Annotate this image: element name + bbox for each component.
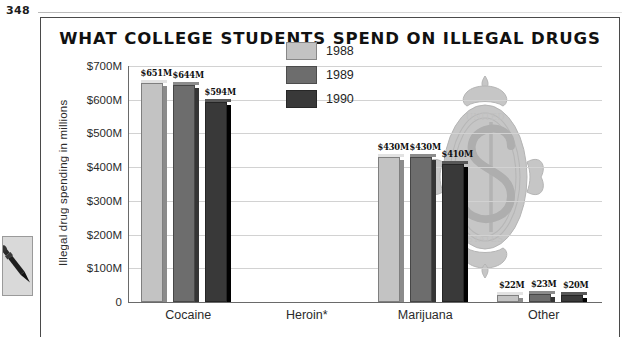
bar-top-shade	[378, 154, 404, 157]
bar-top-shade	[442, 161, 468, 164]
bar-group-other: $22M$23M$20M	[485, 66, 604, 302]
bar-top-shade	[410, 154, 436, 157]
legend-item-1988[interactable]: 1988	[286, 41, 354, 61]
bar-side-shade	[464, 167, 468, 302]
bar-value-label: $410M	[442, 149, 473, 159]
bar-top-shade	[141, 80, 167, 83]
legend-label: 1988	[326, 44, 354, 58]
bar-face	[173, 85, 195, 302]
bar-face	[497, 295, 519, 302]
bar-group-marijuana: $430M$430M$410M	[366, 66, 485, 302]
bar-side-shade	[432, 160, 436, 302]
x-axis-category-labels: CocaineHeroin*MarijuanaOther	[129, 308, 603, 328]
bar-side-shade	[400, 160, 404, 302]
y-axis-tick: $200M	[87, 229, 122, 241]
bar-face	[561, 295, 583, 302]
x-axis-label-other: Other	[528, 308, 559, 322]
bar-side-shade	[195, 88, 199, 302]
y-axis-tick: $100M	[87, 262, 122, 274]
bar-face	[529, 294, 551, 302]
chart-container: WHAT COLLEGE STUDENTS SPEND ON ILLEGAL D…	[40, 17, 620, 337]
bar-top-shade	[205, 99, 231, 102]
y-axis-tick: $500M	[87, 127, 122, 139]
x-axis-label-cocaine: Cocaine	[165, 308, 211, 322]
plot-area: UNITED STATES $651M$644M$594M$430M$430M$…	[129, 66, 602, 302]
bar-top-shade	[497, 292, 523, 295]
x-axis-label-marijuana: Marijuana	[398, 308, 453, 322]
bar-value-label: $644M	[173, 70, 204, 80]
pen-nib-icon	[2, 236, 33, 296]
bar-top-shade	[173, 82, 199, 85]
legend-label: 1989	[326, 68, 354, 82]
bar-face	[410, 157, 432, 302]
y-axis-tick: 0	[116, 296, 122, 308]
bar-group-cocaine: $651M$644M$594M	[129, 66, 248, 302]
bar-face	[442, 164, 464, 302]
y-axis-tick-labels: 0$100M$200M$300M$400M$500M$600M$700M	[74, 66, 126, 302]
bar-side-shade	[227, 105, 231, 302]
legend-item-1989[interactable]: 1989	[286, 65, 354, 85]
y-axis-tick: $700M	[87, 60, 122, 72]
bar-top-shade	[529, 291, 555, 294]
legend-item-1990[interactable]: 1990	[286, 89, 354, 109]
x-axis-label-heroin: Heroin*	[286, 308, 328, 322]
x-axis-line	[128, 302, 602, 303]
bar-value-label: $20M	[563, 280, 589, 290]
legend-swatch-1990	[286, 90, 317, 108]
bar-value-label: $23M	[531, 279, 557, 289]
bar-value-label: $430M	[410, 142, 441, 152]
bar-side-shade	[163, 86, 167, 302]
chart-legend: 198819891990	[286, 41, 354, 113]
page-number: 348	[6, 4, 30, 17]
bar-face	[205, 102, 227, 302]
y-axis-tick: $600M	[87, 94, 122, 106]
bar-value-label: $430M	[378, 142, 409, 152]
y-axis-title: Illegal drug spending in millions	[55, 70, 71, 295]
bar-face	[378, 157, 400, 302]
bar-value-label: $651M	[141, 68, 172, 78]
legend-label: 1990	[326, 92, 354, 106]
bar-top-shade	[561, 292, 587, 295]
bar-value-label: $22M	[499, 280, 525, 290]
header-rule	[38, 12, 622, 13]
bar-value-label: $594M	[205, 87, 236, 97]
y-axis-tick: $300M	[87, 195, 122, 207]
legend-swatch-1988	[286, 42, 317, 60]
bar-face	[141, 83, 163, 302]
legend-swatch-1989	[286, 66, 317, 84]
y-axis-tick: $400M	[87, 161, 122, 173]
